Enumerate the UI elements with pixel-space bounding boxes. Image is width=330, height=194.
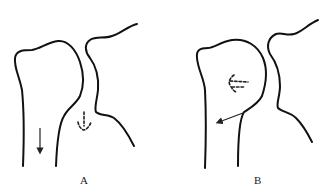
panel-b	[197, 20, 318, 168]
solid-arrow-down-left-icon	[219, 113, 243, 122]
humerus-outline-a	[15, 41, 83, 166]
panel-label-b: B	[254, 175, 261, 186]
panel-label-a: A	[80, 175, 88, 186]
scapula-outline-a	[86, 24, 137, 146]
shoulder-diagram: A B	[0, 0, 330, 194]
dashed-arrow-left-icon	[229, 75, 248, 92]
dashed-arrow-up-icon	[78, 112, 91, 130]
diagram-canvas	[0, 0, 330, 194]
scapula-outline-b	[268, 20, 318, 142]
panel-a	[15, 24, 137, 166]
humerus-outline-b	[197, 40, 266, 168]
